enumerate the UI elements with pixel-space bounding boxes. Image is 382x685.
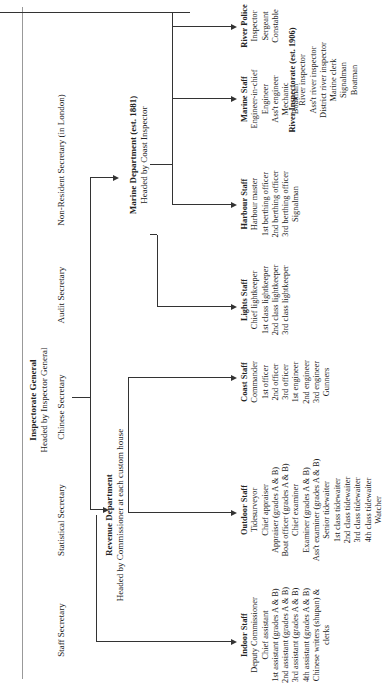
lights-item: 3rd class lightkeeper <box>281 260 291 340</box>
root-title: Inspectorate General <box>28 315 39 485</box>
outdoor-item: Senior tidewaiter <box>322 455 332 565</box>
harbour-drop-line <box>172 204 233 205</box>
indoor-staff-column: Indoor Staff Deputy Commissioner Chief a… <box>240 585 333 685</box>
root-subtitle: Headed by Inspector General <box>39 315 50 485</box>
marine-staff-item: Engineer-in-chief <box>250 61 260 137</box>
river-item: Boatman <box>350 15 360 145</box>
marine-arrow-icon <box>113 175 119 181</box>
indoor-title: Indoor Staff <box>240 585 250 685</box>
marine-staff-title: Marine Staff <box>240 61 250 137</box>
coast-item: 2nd engineer <box>302 347 312 417</box>
police-title: River Police <box>240 0 250 53</box>
outdoor-title: Outdoor Staff <box>240 455 250 565</box>
indoor-arrow-icon <box>231 639 237 645</box>
indoor-item: 3rd assistant (grades A & B) <box>291 585 301 685</box>
outdoor-item: Watcher <box>374 455 382 565</box>
river-inspectorate-column: River Inspectorate (est. 1906) River ins… <box>288 15 360 145</box>
harbour-item: Signalman <box>291 163 301 245</box>
river-item: Marine clerk <box>329 15 339 145</box>
river-item: District river inspector <box>319 15 329 145</box>
caption-rule <box>22 7 23 679</box>
coast-arrow-icon <box>231 375 237 381</box>
police-item: Constable <box>271 0 281 53</box>
outdoor-staff-column: Outdoor Staff Tidesurveyor Chief apprais… <box>240 455 382 565</box>
coast-staff-column: Coast Staff Commander 1st officer 2nd of… <box>240 347 333 417</box>
marine-staff-drop-line <box>172 98 233 99</box>
harbour-title: Harbour Staff <box>240 163 250 245</box>
secretary-non-resident: Non-Resident Secretary (in London) <box>56 65 67 255</box>
coast-item: 3rd officer <box>281 347 291 417</box>
revenue-department-node: Revenue Department Headed by Commissione… <box>104 415 125 615</box>
marine-department-node: Marine Department (est. 1881) Headed by … <box>128 80 149 230</box>
org-chart-page: Inspectorate General Headed by Inspector… <box>0 0 382 685</box>
harbour-arrow-icon <box>231 202 237 208</box>
harbour-item: 3rd berthing officer <box>281 163 291 245</box>
police-drop-line <box>172 26 233 27</box>
outdoor-item: Appraiser (grades A & B) <box>271 455 281 565</box>
root-stem <box>72 397 90 398</box>
revenue-title: Revenue Department <box>104 415 115 615</box>
indoor-item: Chinese writers (shupan) & <box>312 585 322 685</box>
indoor-item: 1st assistant (grades A & B) <box>271 585 281 685</box>
secretary-chinese: Chinese Secretary <box>56 357 67 457</box>
indoor-item: Chief assistant <box>261 585 271 685</box>
indoor-item: clerks <box>322 585 332 685</box>
indoor-item: 4th assistant (grades A & B) <box>302 585 312 685</box>
indoor-top-line <box>96 515 97 642</box>
secretary-statistical: Statistical Secretary <box>56 470 67 570</box>
river-item: Ass't river inspector <box>309 15 319 145</box>
outdoor-item: Boat officer (grades A & B) <box>281 455 291 565</box>
outdoor-item: Examiner (grades A & B) <box>302 455 312 565</box>
river-item: River inspector <box>298 15 308 145</box>
lights-staff-column: Lights Staff Chief lightkeeper 1st class… <box>240 260 291 340</box>
marine-title: Marine Department (est. 1881) <box>128 80 139 230</box>
coast-top-line <box>128 378 129 513</box>
harbour-staff-column: Harbour Staff Harbour master 1st berthin… <box>240 163 302 245</box>
outdoor-line <box>128 512 233 513</box>
harbour-item: Harbour master <box>250 163 260 245</box>
coast-item: Gunners <box>322 347 332 417</box>
inspectorate-general-node: Inspectorate General Headed by Inspector… <box>28 315 49 485</box>
lights-top <box>157 235 158 307</box>
outdoor-item: 3rd class tidewaiter <box>353 455 363 565</box>
indoor-item: 2nd assistant (grades A & B) <box>281 585 291 685</box>
marine-to-rail <box>150 164 172 165</box>
lights-arrow-icon <box>231 304 237 310</box>
main-bus <box>90 178 91 510</box>
coast-title: Coast Staff <box>240 347 250 417</box>
coast-item: 3rd engineer <box>312 347 322 417</box>
outdoor-item: Tidesurveyor <box>250 455 260 565</box>
outdoor-item: 4th class tidewaiter <box>364 455 374 565</box>
marine-staff-item: Engineer <box>261 61 271 137</box>
outdoor-item: 1st class tidewaiter <box>333 455 343 565</box>
outdoor-arrow-icon <box>231 510 237 516</box>
marine-sub-rail <box>172 12 173 205</box>
harbour-item: 1st berthing officer <box>261 163 271 245</box>
revenue-subtitle: Headed by Commissioner at each custom ho… <box>115 415 126 615</box>
outdoor-item: Chief examiner <box>291 455 301 565</box>
lights-title: Lights Staff <box>240 260 250 340</box>
lights-line <box>157 306 233 307</box>
river-police-column: River Police Inspector Sergeant Constabl… <box>240 0 281 53</box>
marine-right-rail <box>0 12 190 13</box>
coast-item: 1st officer <box>261 347 271 417</box>
secretary-audit: Audit Secretary <box>56 250 67 340</box>
marine-subtitle: Headed by Coast Inspector <box>139 80 150 230</box>
coast-item: 2nd officer <box>271 347 281 417</box>
police-arrow-icon <box>231 24 237 30</box>
police-item: Inspector <box>250 0 260 53</box>
lights-item: Chief lightkeeper <box>250 260 260 340</box>
coast-item: Commander <box>250 347 260 417</box>
police-item: Sergeant <box>261 0 271 53</box>
marine-staff-item: Ass't engineer <box>271 61 281 137</box>
lights-item: 1st class lightkeeper <box>261 260 271 340</box>
indoor-line <box>96 641 233 642</box>
marine-left-stem <box>150 234 157 235</box>
coast-item: 1st engineer <box>291 347 301 417</box>
secretary-staff: Staff Secretary <box>56 585 67 675</box>
outdoor-item: 2nd class tidewaiter <box>343 455 353 565</box>
harbour-item: 2nd berthing officer <box>271 163 281 245</box>
outdoor-item: Chief appraiser <box>261 455 271 565</box>
river-item: Signalman <box>339 15 349 145</box>
coast-line <box>128 377 233 378</box>
